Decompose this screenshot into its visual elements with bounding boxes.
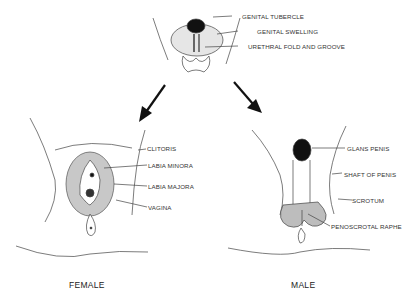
label-urethral-fold-and-groove: URETHRAL FOLD AND GROOVE	[248, 43, 345, 50]
label-glans-penis: GLANS PENIS	[347, 145, 389, 152]
label-genital-tubercle: GENITAL TUBERCLE	[242, 13, 304, 20]
caption-male: MALE	[291, 280, 315, 290]
indifferent-stage-drawing	[153, 16, 240, 72]
arrow-to-female	[139, 85, 165, 122]
caption-female: FEMALE	[69, 280, 105, 290]
label-vagina: VAGINA	[148, 204, 172, 211]
label-clitoris: CLITORIS	[147, 145, 176, 152]
label-genital-swelling: GENITAL SWELLING	[257, 28, 318, 35]
label-labia-majora: LABIA MAJORA	[148, 183, 194, 190]
label-scrotum: SCROTUM	[352, 197, 384, 204]
female-drawing	[16, 118, 148, 257]
label-penoscrotal-raphe: PENOSCROTAL RAPHE	[331, 223, 402, 230]
label-labia-minora: LABIA MINORA	[148, 162, 193, 169]
arrow-to-male	[234, 82, 262, 113]
label-shaft-of-penis: SHAFT OF PENIS	[344, 171, 396, 178]
